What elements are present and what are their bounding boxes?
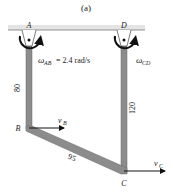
point-label-b: B (16, 124, 21, 133)
svg-text:CD: CD (142, 60, 151, 66)
length-bc: 95 (67, 152, 78, 163)
point-label-d: D (120, 21, 127, 30)
bar-bc (26, 126, 127, 174)
svg-text:v: v (154, 159, 158, 168)
svg-text:C: C (159, 163, 164, 169)
svg-text:AB: AB (43, 60, 52, 66)
length-cd: 120 (128, 102, 137, 114)
omega-ab-label: ω AB = 2.4 rad/s (38, 55, 90, 66)
four-bar-linkage-diagram: (a) A D B C ω AB = 2.4 rad/s ω CD 80 (0, 0, 173, 194)
pin-support-d (117, 30, 131, 46)
svg-text:= 2.4 rad/s: = 2.4 rad/s (56, 56, 90, 65)
bar-cd (121, 46, 127, 173)
bar-ab (26, 46, 32, 129)
figure-caption: (a) (81, 3, 91, 13)
length-ab: 80 (13, 84, 22, 92)
pin-support-a (22, 30, 36, 46)
point-label-c: C (121, 179, 127, 188)
svg-text:v: v (58, 116, 62, 125)
point-label-a: A (26, 21, 32, 30)
velocity-c-label: v C (154, 159, 164, 169)
omega-cd-label: ω CD (136, 55, 151, 66)
velocity-b-label: v B (58, 116, 67, 126)
svg-text:B: B (63, 120, 67, 126)
